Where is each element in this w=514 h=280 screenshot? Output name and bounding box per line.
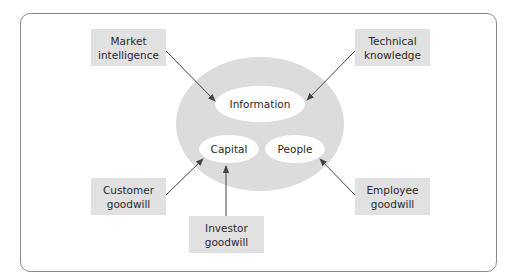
technical-knowledge-box: Technical knowledge (355, 29, 430, 66)
information-label: Information (230, 98, 291, 110)
market-intelligence-box: Market intelligence (91, 29, 166, 66)
box-line: Market (110, 34, 146, 48)
capital-label: Capital (211, 143, 248, 155)
arrow-customer-to-capital (166, 159, 203, 195)
arrow-employee-to-people (320, 159, 355, 195)
box-line: knowledge (364, 48, 421, 62)
box-line: goodwill (205, 235, 249, 249)
customer-goodwill-box: Customer goodwill (91, 178, 166, 215)
box-line: Employee (366, 183, 418, 197)
people-label: People (278, 143, 313, 155)
core-ellipse (176, 57, 344, 191)
box-line: goodwill (371, 197, 415, 211)
box-line: Investor (205, 221, 248, 235)
box-line: Technical (368, 34, 416, 48)
box-line: Customer (103, 183, 154, 197)
employee-goodwill-box: Employee goodwill (355, 178, 430, 215)
box-line: goodwill (107, 197, 151, 211)
box-line: intelligence (98, 48, 159, 62)
investor-goodwill-box: Investor goodwill (189, 216, 264, 253)
